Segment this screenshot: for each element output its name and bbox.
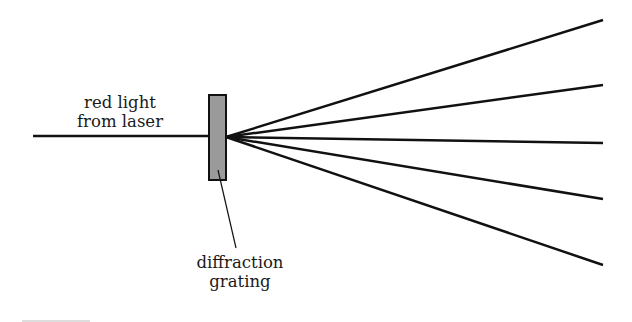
grating-pointer-line (218, 170, 236, 248)
source-label-line1: red light (60, 93, 180, 112)
ray-order-0 (226, 137, 603, 143)
source-label: red light from laser (60, 93, 180, 131)
grating-label-line1: diffraction (180, 253, 300, 272)
diffraction-diagram (0, 0, 632, 322)
grating-label-line2: grating (180, 272, 300, 291)
ray-order-minus-2 (226, 137, 603, 265)
ray-order-plus-2 (226, 20, 603, 137)
ray-order-plus-1 (226, 85, 603, 137)
ray-order-minus-1 (226, 137, 603, 199)
diffracted-rays (226, 20, 603, 265)
grating-label: diffraction grating (180, 253, 300, 291)
diffraction-grating (209, 95, 226, 180)
source-label-line2: from laser (60, 112, 180, 131)
